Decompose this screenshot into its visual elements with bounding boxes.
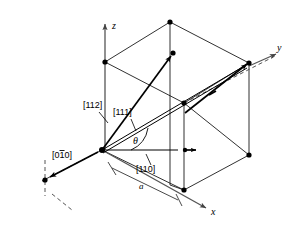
dimension-tick-left bbox=[108, 162, 116, 175]
dimension-tick-right bbox=[176, 194, 182, 206]
cube-top-face bbox=[105, 22, 249, 103]
direction-112-endpoint-dot bbox=[170, 50, 175, 55]
direction-110-node-dot bbox=[183, 148, 187, 152]
diagram-canvas: z y x [010] θ bbox=[0, 0, 289, 233]
negative-y-cross-diagonal bbox=[52, 194, 72, 210]
y-axis-dashed-line bbox=[184, 56, 275, 103]
cube-vertex-top-left bbox=[102, 59, 107, 64]
crystal-direction-diagram: z y x [010] θ bbox=[0, 0, 289, 233]
negative-y-endpoint-dot bbox=[42, 177, 47, 182]
theta-angle-label: θ bbox=[133, 135, 138, 146]
direction-112-leader-line bbox=[99, 112, 108, 123]
cube-vertex-front-top bbox=[181, 100, 186, 105]
direction-label-110: [110] bbox=[136, 164, 155, 174]
cube-edge-mid-front-right bbox=[184, 103, 249, 155]
cube-vertex-bottom-right bbox=[246, 152, 251, 157]
direction-111-arrow bbox=[185, 64, 247, 113]
cube-edge-top-front-left bbox=[105, 62, 184, 103]
direction-label-111: [111] bbox=[113, 107, 132, 117]
overbar-one: 1 bbox=[60, 150, 65, 160]
y-axis-label: y bbox=[276, 42, 282, 53]
y-axis-arrow bbox=[249, 54, 276, 66]
x-axis-label: x bbox=[210, 206, 216, 217]
z-axis-label: z bbox=[111, 20, 116, 31]
cube-vertex-top-right bbox=[246, 60, 251, 65]
cube-edge-top-back-right bbox=[170, 22, 249, 63]
cube-vertex-top-back bbox=[167, 19, 172, 24]
direction-label-112: [112] bbox=[83, 100, 102, 110]
x-axis-line bbox=[102, 150, 206, 208]
cube-edge-bottom-front-right bbox=[184, 155, 249, 190]
origin-vertex bbox=[99, 147, 105, 153]
lattice-parameter-label: a bbox=[139, 181, 144, 191]
direction-label-0bar10: [010] bbox=[52, 150, 72, 160]
cube-vertex-bottom-front bbox=[181, 187, 186, 192]
direction-111-leader-line bbox=[131, 119, 136, 131]
